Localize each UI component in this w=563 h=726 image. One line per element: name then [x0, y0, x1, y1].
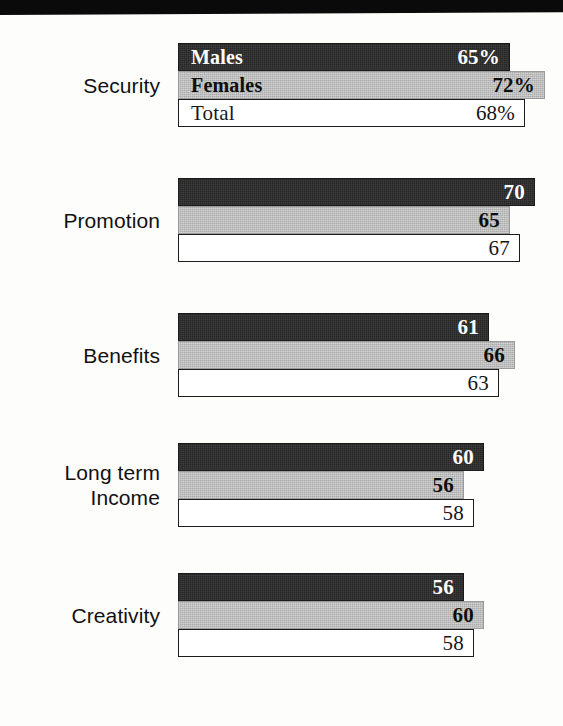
category-label-line: Creativity — [0, 603, 160, 628]
bar-value-label: 61 — [458, 315, 479, 340]
bar-value-label: 66 — [484, 343, 505, 368]
bar-value-label: 60 — [453, 603, 474, 628]
bar-value-label: 72% — [492, 73, 535, 98]
series-name-label: Females — [191, 74, 262, 97]
bar-males[interactable]: 61 — [178, 313, 489, 341]
category-label: Security — [0, 73, 160, 98]
bar-females[interactable]: 56 — [178, 471, 464, 499]
bar-males[interactable]: 70 — [178, 178, 535, 206]
bar-value-label: 60 — [453, 445, 474, 470]
category-label-line: Promotion — [0, 208, 160, 233]
series-name-label: Males — [191, 46, 243, 69]
bar-males[interactable]: 56 — [178, 573, 464, 601]
bar-females[interactable]: 65 — [178, 206, 510, 234]
bar-value-label: 65% — [457, 45, 500, 70]
bar-value-label: 56 — [433, 575, 454, 600]
category-label: Creativity — [0, 603, 160, 628]
bar-stack: 706567 — [178, 178, 535, 262]
bar-value-label: 68% — [476, 101, 515, 126]
bar-males[interactable]: 60 — [178, 443, 484, 471]
series-name-label: Total — [191, 101, 235, 126]
bar-total[interactable]: 63 — [178, 369, 499, 397]
bar-value-label: 70 — [504, 180, 525, 205]
bar-total[interactable]: 67 — [178, 234, 520, 262]
bar-females[interactable]: 66 — [178, 341, 515, 369]
bar-value-label: 63 — [468, 371, 489, 396]
bar-females[interactable]: 60 — [178, 601, 484, 629]
bar-value-label: 58 — [443, 501, 464, 526]
bar-value-label: 65 — [479, 208, 500, 233]
category-label-line: Long term — [0, 460, 160, 485]
bar-stack: Males65%Females72%Total68% — [178, 43, 545, 127]
bar-females[interactable]: Females72% — [178, 71, 545, 99]
bar-males[interactable]: Males65% — [178, 43, 510, 71]
category-label-line: Benefits — [0, 343, 160, 368]
bar-value-label: 58 — [443, 631, 464, 656]
bar-value-label: 56 — [433, 473, 454, 498]
bar-stack: 566058 — [178, 573, 484, 657]
category-label-line: Income — [0, 485, 160, 510]
bar-total[interactable]: Total68% — [178, 99, 525, 127]
category-label-line: Security — [0, 73, 160, 98]
bar-value-label: 67 — [489, 236, 510, 261]
top-black-band — [0, 0, 563, 15]
bar-stack: 616663 — [178, 313, 515, 397]
bar-total[interactable]: 58 — [178, 629, 474, 657]
category-label: Long termIncome — [0, 460, 160, 510]
grouped-horizontal-bar-chart: SecurityMales65%Females72%Total68%Promot… — [0, 15, 563, 726]
category-label: Promotion — [0, 208, 160, 233]
bar-total[interactable]: 58 — [178, 499, 474, 527]
category-label: Benefits — [0, 343, 160, 368]
bar-stack: 605658 — [178, 443, 484, 527]
